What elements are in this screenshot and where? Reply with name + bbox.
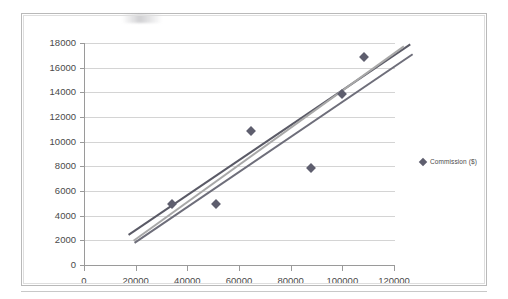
data-point-marker[interactable]: [211, 199, 221, 209]
data-series-commission: [22, 14, 486, 285]
data-point-marker[interactable]: [246, 126, 256, 136]
page-bottom-rule: [21, 291, 487, 292]
data-point-marker[interactable]: [337, 89, 347, 99]
data-point-marker[interactable]: [306, 163, 316, 173]
chart-frame: 0200040006000800010000120001400016000180…: [21, 13, 487, 286]
data-point-marker[interactable]: [167, 199, 177, 209]
data-point-marker[interactable]: [359, 52, 369, 62]
